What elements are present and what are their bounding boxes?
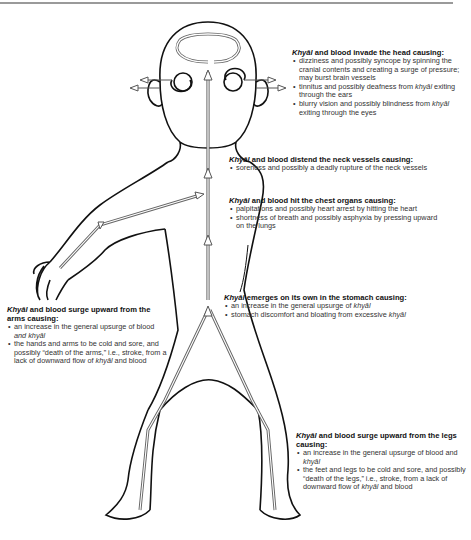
annotation-arms: Khyāl and blood surge upward from the ar…: [7, 305, 167, 366]
bullet: tinnitus and possibly deafness from khyā…: [292, 83, 470, 100]
bullet: an increase in the general upsurge of bl…: [296, 449, 468, 466]
annotation-neck: Khyāl and blood distend the neck vessels…: [229, 155, 469, 173]
brain-circulation-arrow: [177, 34, 239, 62]
annotation-head: Khyāl and blood invade the head causing:…: [292, 48, 470, 117]
bullet: the feet and legs to be cold and sore, a…: [296, 466, 468, 492]
bullet: the hands and arms to be cold and sore, …: [7, 340, 167, 366]
bullet: dizziness and possibly syncope by spinni…: [292, 57, 470, 83]
bullet: soreness and possibly a deadly rupture o…: [229, 164, 469, 173]
bullet: blurry vision and possibly blindness fro…: [292, 100, 470, 117]
bullet: an increase in the general upsurge of bl…: [7, 323, 167, 340]
bullet: shortness of breath and possibly asphyxi…: [229, 214, 444, 231]
hand-outline: [34, 262, 68, 300]
central-upward-arrow: [204, 70, 212, 300]
annotation-chest: Khyāl and blood hit the chest organs cau…: [229, 196, 444, 231]
annotation-legs: Khyāl and blood surge upward from the le…: [296, 431, 468, 492]
arm-upward-arrow: [60, 192, 204, 268]
annotation-stomach: Khyāl emerges on its own in the stomach …: [224, 293, 471, 319]
bullet: stomach discomfort and bloating from exc…: [224, 311, 471, 320]
